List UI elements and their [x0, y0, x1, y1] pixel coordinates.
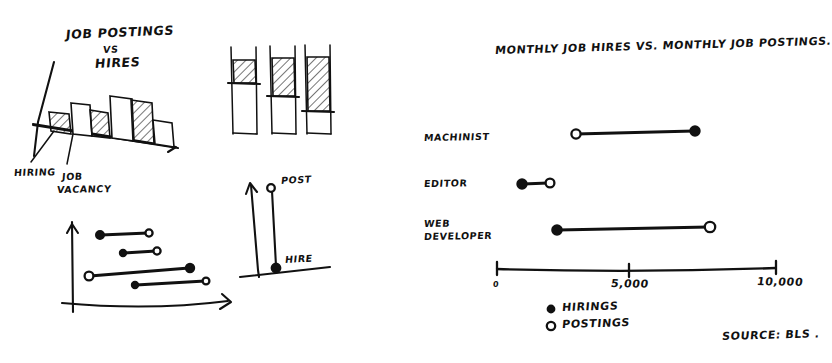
- stacked-column-sketch: [228, 45, 334, 134]
- bar-hiring-1: [49, 112, 71, 134]
- dumbbell-y-axis: [72, 222, 73, 312]
- dumbbell-row-4-start: [132, 282, 139, 289]
- stack-col-2-divider: [267, 96, 299, 97]
- webdev-postings-marker: [705, 222, 715, 232]
- row-label-web-developer-line1: WEB: [424, 219, 451, 230]
- dumbbell-row-3-start: [85, 272, 94, 281]
- annotation-hiring: HIRING: [14, 167, 57, 178]
- editor-postings-marker: [546, 179, 555, 188]
- slope-baseline: [240, 267, 330, 277]
- slope-point-hire: [271, 263, 280, 272]
- machinist-postings-marker: [571, 129, 580, 138]
- main-chart-legend-markers: [547, 305, 555, 330]
- stack-col-2-base: [272, 133, 296, 134]
- legend-postings-marker: [547, 322, 555, 330]
- dumbbell-row-2-start: [120, 250, 127, 257]
- machinist-hirings-marker: [690, 126, 700, 136]
- paired-bar-sketch: [31, 62, 178, 164]
- webdev-connector: [558, 227, 709, 230]
- bar-hiring-3: [131, 100, 154, 144]
- dumbbell-row-2-line: [124, 251, 156, 253]
- slope-label-hire: HIRE: [284, 254, 313, 266]
- sketch-y-axis: [34, 62, 54, 156]
- main-chart-axis-line: [497, 268, 776, 271]
- stack-col-2-top: [272, 58, 295, 96]
- machinist-connector: [576, 131, 694, 134]
- legend-label-postings: POSTINGS: [561, 317, 630, 331]
- dumbbell-row-1-line: [101, 233, 148, 235]
- dumbbell-row-1-start: [96, 231, 104, 239]
- slope-y-axis: [251, 185, 259, 277]
- sketch-title-line2: VS: [102, 45, 118, 56]
- dumbbell-row-4-line: [136, 281, 205, 285]
- axis-tick-label-10000: 10,000: [756, 276, 804, 289]
- dumbbell-row-4-end: [203, 278, 210, 285]
- stack-col-3-top: [307, 57, 330, 111]
- dumbbell-row-3-end: [186, 264, 195, 273]
- annotation-job-vacancy-line1: JOB: [62, 172, 84, 183]
- editor-hirings-marker: [517, 179, 527, 189]
- dumbbell-row-1-end: [145, 229, 152, 236]
- dumbbell-row-3-line: [90, 268, 189, 276]
- annotation-job-vacancy-line2: VACANCY: [57, 184, 112, 196]
- bar-vacancy-3: [153, 120, 174, 147]
- slope-point-post: [267, 184, 275, 192]
- stack-col-1-divider: [228, 83, 260, 84]
- stack-col-1-base: [233, 133, 257, 134]
- row-label-web-developer-line2: DEVELOPER: [424, 231, 493, 243]
- main-chart-plot: [497, 126, 776, 277]
- stack-col-3-divider: [302, 111, 334, 112]
- dumbbell-x-axis: [62, 301, 228, 307]
- slope-label-post: POST: [280, 174, 312, 186]
- stack-col-3-base: [307, 133, 331, 134]
- leader-line-vacancy: [67, 134, 73, 164]
- row-label-machinist: MACHINIST: [424, 132, 490, 144]
- legend-hirings-marker: [547, 305, 554, 312]
- sketch-title-line3: HIRES: [94, 55, 141, 71]
- row-label-editor: EDITOR: [424, 178, 468, 189]
- bar-vacancy-1: [71, 103, 92, 136]
- dumbbell-row-2-end: [153, 247, 160, 254]
- stack-col-1-top: [233, 60, 256, 83]
- slope-connector: [272, 191, 276, 266]
- axis-tick-label-0: 0: [493, 281, 500, 290]
- dumbbell-sketch: [62, 222, 231, 312]
- bar-hiring-2: [90, 110, 110, 138]
- webdev-hirings-marker: [552, 225, 562, 235]
- legend-label-hirings: HIRINGS: [561, 300, 618, 314]
- axis-tick-label-5000: 5,000: [610, 278, 650, 291]
